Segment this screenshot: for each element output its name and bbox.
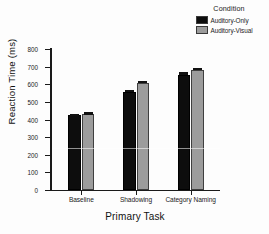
y-tick-400 bbox=[45, 120, 50, 121]
bar-shadowing-auditory-visual bbox=[137, 83, 150, 190]
y-tick-700 bbox=[45, 67, 50, 68]
bar-shadowing-auditory-only bbox=[123, 92, 136, 190]
y-tick-500 bbox=[45, 102, 50, 103]
bar-baseline-auditory-only bbox=[68, 115, 81, 190]
x-tick-label-category-naming: Category Naming bbox=[146, 196, 236, 203]
error-bar-category-naming-auditory-visual bbox=[193, 68, 202, 70]
legend-swatch-auditory-visual bbox=[196, 26, 208, 34]
legend-title: Condition bbox=[196, 4, 262, 13]
legend-entry-auditory-only: Auditory-Only bbox=[196, 16, 266, 25]
error-bar-shadowing-auditory-only bbox=[125, 90, 134, 92]
x-tick-category-naming bbox=[191, 191, 192, 195]
x-axis-title: Primary Task bbox=[50, 211, 220, 222]
y-tick-100 bbox=[45, 172, 50, 173]
error-bar-baseline-auditory-only bbox=[70, 114, 79, 116]
bar-category-naming-auditory-visual bbox=[191, 70, 204, 190]
x-tick-baseline bbox=[81, 191, 82, 195]
bar-baseline-auditory-visual bbox=[82, 114, 95, 190]
y-tick-600 bbox=[45, 84, 50, 85]
y-tick-200 bbox=[45, 155, 50, 156]
y-tick-label-200: 200 bbox=[12, 151, 38, 158]
error-bar-baseline-auditory-visual bbox=[84, 112, 93, 114]
bar-category-naming-auditory-only bbox=[178, 75, 191, 190]
chart-legend: Condition Auditory-Only Auditory-Visual bbox=[196, 4, 266, 36]
plot-area bbox=[51, 50, 215, 190]
legend-label-auditory-visual: Auditory-Visual bbox=[211, 27, 253, 34]
bar-chart-figure: Condition Auditory-Only Auditory-Visual … bbox=[0, 0, 269, 234]
error-bar-category-naming-auditory-only bbox=[179, 72, 188, 74]
y-tick-label-100: 100 bbox=[12, 169, 38, 176]
legend-entry-auditory-visual: Auditory-Visual bbox=[196, 26, 266, 35]
legend-swatch-auditory-only bbox=[196, 16, 208, 24]
legend-label-auditory-only: Auditory-Only bbox=[211, 17, 249, 24]
y-tick-800 bbox=[45, 49, 50, 50]
y-tick-0 bbox=[45, 190, 50, 191]
y-tick-300 bbox=[45, 137, 50, 138]
y-tick-label-0: 0 bbox=[12, 187, 38, 194]
x-tick-shadowing bbox=[136, 191, 137, 195]
error-bar-shadowing-auditory-visual bbox=[138, 81, 147, 83]
y-axis-title: Reaction Time (ms) bbox=[6, 22, 17, 142]
